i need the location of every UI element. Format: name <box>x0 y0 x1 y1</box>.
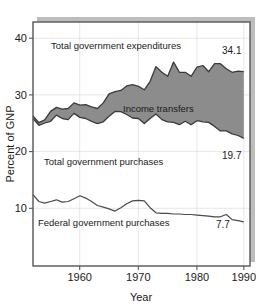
x-tick-label-1960: 1960 <box>67 271 91 283</box>
y-tick-label-20: 20 <box>15 145 27 157</box>
y-axis-title: Percent of GNP <box>4 105 16 182</box>
label-income-transfers: Income transfers <box>123 103 194 114</box>
chart-svg: 40 30 20 10 1960 1970 1980 1990 Year Per… <box>0 0 265 307</box>
label-federal-purchases: Federal government purchases <box>38 217 170 228</box>
x-tick-label-1990: 1990 <box>232 271 256 283</box>
value-label-purchases-19-7: 19.7 <box>222 150 242 161</box>
chart-figure: 40 30 20 10 1960 1970 1980 1990 Year Per… <box>0 0 265 307</box>
value-label-expenditures-34-1: 34.1 <box>222 45 242 56</box>
label-total-expenditures: Total government expenditures <box>51 40 181 51</box>
label-total-purchases: Total government purchases <box>44 156 164 167</box>
x-axis-title: Year <box>130 291 153 303</box>
y-tick-label-30: 30 <box>15 89 27 101</box>
y-tick-label-40: 40 <box>15 32 27 44</box>
y-tick-label-10: 10 <box>15 202 27 214</box>
value-label-federal-7-7: 7.7 <box>216 219 230 230</box>
x-tick-label-1970: 1970 <box>126 271 150 283</box>
x-tick-label-1980: 1980 <box>185 271 209 283</box>
